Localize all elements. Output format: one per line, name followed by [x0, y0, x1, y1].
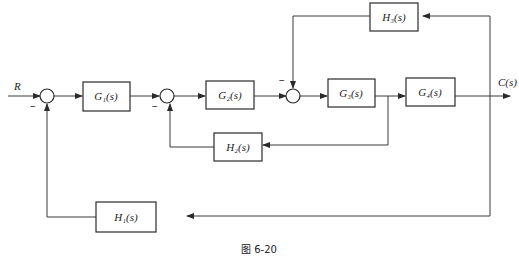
s1-minus-sign: −	[30, 101, 36, 112]
h2-label: H₂(s)	[225, 141, 250, 154]
block-g4: G₄(s)	[406, 78, 455, 106]
block-h3: H₃(s)	[370, 3, 418, 31]
h2-feedback-out	[170, 104, 214, 147]
block-h1: H₁(s)	[96, 202, 156, 232]
block-g1: G₁(s)	[83, 82, 130, 111]
input-label: R	[13, 80, 21, 92]
block-diagram: − − − R C(s) G₁(s) G₂(s) G₃(s) G₄(s) H₃(…	[0, 0, 519, 259]
summing-junction-3	[286, 89, 300, 103]
s3-minus-sign: −	[279, 75, 285, 86]
block-g3: G₃(s)	[328, 79, 375, 107]
summing-junction-1	[40, 89, 54, 103]
h3-label: H₃(s)	[381, 11, 406, 24]
block-h2: H₂(s)	[214, 133, 262, 161]
s2-minus-sign: −	[152, 101, 158, 112]
h3-feedback-out	[293, 16, 370, 88]
g2-label: G₂(s)	[218, 89, 242, 102]
figure-caption: 图 6-20	[241, 244, 277, 255]
output-label: C(s)	[498, 76, 517, 89]
g4-label: G₄(s)	[418, 86, 442, 99]
h1-label: H₁(s)	[113, 211, 138, 224]
block-g2: G₂(s)	[206, 81, 254, 109]
summing-junction-2	[160, 89, 174, 103]
h1-feedback-out	[47, 104, 96, 217]
g1-label: G₁(s)	[94, 90, 118, 103]
g3-label: G₃(s)	[339, 87, 363, 100]
